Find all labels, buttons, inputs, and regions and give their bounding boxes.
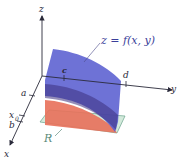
label-x0: x	[9, 110, 14, 120]
x-axis-label: x	[4, 149, 9, 159]
x-axis	[10, 76, 42, 145]
y-axis-label: y	[170, 84, 177, 94]
label-c: c	[62, 65, 67, 75]
surface-label: z = f(x, y)	[100, 34, 155, 47]
label-a: a	[21, 88, 26, 98]
tick-a	[29, 95, 35, 96]
diagram-canvas: z y x z = f(x, y) c d a x 0 b R	[0, 0, 178, 162]
label-b: b	[9, 120, 15, 130]
region-leader	[55, 129, 62, 136]
label-d: d	[123, 70, 129, 80]
region-label: R	[43, 132, 52, 145]
label-x0-sub: 0	[15, 115, 19, 122]
surface-leader	[84, 43, 100, 62]
z-axis-label: z	[38, 4, 44, 14]
